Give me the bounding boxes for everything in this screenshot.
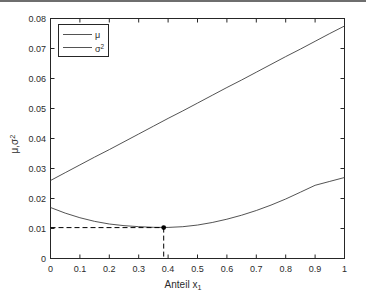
y-axis-label-separator: , bbox=[9, 145, 20, 148]
x-tick-label: 0.3 bbox=[132, 265, 145, 274]
y-tick-label: 0.05 bbox=[8, 104, 46, 113]
legend-label-sigma2: σ2 bbox=[95, 44, 104, 54]
x-axis-label: Anteil x1 bbox=[0, 279, 366, 292]
y-tick-label: 0.08 bbox=[8, 14, 46, 23]
x-tick-label: 1 bbox=[342, 265, 347, 274]
y-axis-label-mu: μ bbox=[9, 148, 20, 154]
legend-label-mu-text: μ bbox=[95, 30, 100, 40]
y-tick-label: 0.01 bbox=[8, 224, 46, 233]
legend-label-sigma2-exponent: 2 bbox=[101, 43, 105, 50]
x-tick-label: 0.1 bbox=[74, 265, 87, 274]
y-axis-label-sigma: σ bbox=[9, 139, 20, 145]
y-tick-label: 0.07 bbox=[8, 44, 46, 53]
x-tick-label: 0.4 bbox=[162, 265, 175, 274]
x-axis-label-subscript: 1 bbox=[197, 283, 201, 292]
y-axis-label: μ,σ2 bbox=[8, 114, 20, 174]
x-tick-label: 0.8 bbox=[279, 265, 292, 274]
x-tick-label: 0.7 bbox=[250, 265, 263, 274]
series-line-sigma2 bbox=[51, 178, 345, 228]
x-tick-label: 0 bbox=[48, 265, 53, 274]
legend-label-mu: μ bbox=[95, 31, 100, 40]
x-axis-label-text: Anteil x bbox=[165, 279, 198, 290]
y-axis-label-sigma-exponent: 2 bbox=[8, 135, 17, 139]
y-tick-label: 0 bbox=[8, 254, 46, 263]
minimum-marker bbox=[161, 225, 166, 230]
x-tick-label: 0.5 bbox=[191, 265, 204, 274]
x-tick-label: 0.9 bbox=[309, 265, 322, 274]
figure-canvas: μ σ2 00.010.020.030.040.050.060.070.08 0… bbox=[0, 0, 366, 304]
x-tick-label: 0.2 bbox=[103, 265, 116, 274]
chart-plot-area bbox=[0, 0, 366, 304]
y-tick-label: 0.02 bbox=[8, 194, 46, 203]
x-tick-label: 0.6 bbox=[221, 265, 234, 274]
y-tick-label: 0.06 bbox=[8, 74, 46, 83]
